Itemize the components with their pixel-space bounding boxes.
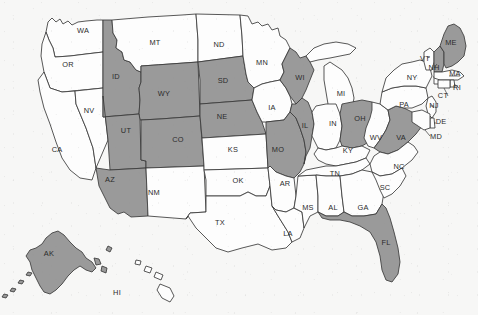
state-label-FL: FL [381, 238, 390, 247]
state-label-HI: HI [113, 288, 121, 297]
state-label-GA: GA [357, 203, 368, 212]
state-label-SC: SC [380, 183, 391, 192]
state-HI[interactable] [135, 260, 174, 302]
state-label-MA: MA [449, 69, 461, 78]
state-label-WY: WY [158, 89, 170, 98]
state-label-KY: KY [343, 146, 353, 155]
state-label-IN: IN [329, 119, 337, 128]
state-label-NJ: NJ [429, 101, 439, 110]
state-label-MI: MI [337, 89, 346, 98]
state-label-WA: WA [77, 26, 89, 35]
state-label-NY: NY [407, 73, 418, 82]
state-label-OK: OK [232, 176, 243, 185]
state-label-AL: AL [328, 203, 337, 212]
state-label-CA: CA [52, 145, 63, 154]
state-label-NE: NE [217, 112, 228, 121]
state-label-NC: NC [393, 162, 405, 171]
state-label-DE: DE [436, 117, 447, 126]
state-IN[interactable] [312, 104, 342, 150]
state-CT[interactable] [438, 80, 450, 88]
state-label-AZ: AZ [105, 175, 115, 184]
state-label-MO: MO [272, 145, 284, 154]
state-label-MS: MS [302, 203, 314, 212]
state-AZ[interactable] [96, 168, 148, 217]
state-label-VT: VT [420, 54, 430, 63]
state-label-ND: ND [213, 40, 224, 49]
alaska-aleutian-islands [2, 272, 32, 298]
us-choropleth-map: WAORCANVIDMTWYUTCOAZNMNDSDNEKSOKTXMNIAMO… [0, 0, 478, 315]
state-label-TN: TN [330, 169, 340, 178]
state-label-UT: UT [121, 126, 132, 135]
state-label-MN: MN [256, 58, 268, 67]
state-label-NM: NM [148, 188, 160, 197]
us-map-figure: WAORCANVIDMTWYUTCOAZNMNDSDNEKSOKTXMNIAMO… [0, 0, 478, 315]
state-label-IL: IL [302, 121, 309, 130]
state-label-ID: ID [112, 72, 120, 81]
state-label-CO: CO [172, 135, 184, 144]
state-label-WI: WI [295, 73, 304, 82]
alaska-panhandle-islands [94, 246, 112, 273]
state-label-TX: TX [215, 218, 225, 227]
state-label-PA: PA [399, 100, 409, 109]
state-label-AK: AK [44, 249, 54, 258]
state-label-AR: AR [280, 179, 291, 188]
state-label-ME: ME [445, 38, 457, 47]
state-label-MT: MT [149, 38, 160, 47]
state-label-CT: CT [438, 91, 449, 100]
state-label-KS: KS [228, 145, 238, 154]
state-label-NH: NH [428, 63, 439, 72]
state-label-MD: MD [430, 132, 442, 141]
state-label-OH: OH [354, 114, 366, 123]
state-AK[interactable] [26, 231, 96, 294]
state-ND[interactable] [196, 14, 243, 62]
state-label-RI: RI [453, 83, 461, 92]
state-label-NV: NV [84, 106, 95, 115]
state-label-OR: OR [62, 60, 74, 69]
state-label-SD: SD [218, 76, 229, 85]
state-label-VA: VA [396, 133, 406, 142]
state-label-LA: LA [283, 229, 292, 238]
state-label-WV: WV [370, 133, 382, 142]
state-label-IA: IA [268, 103, 275, 112]
state-WA[interactable] [46, 18, 103, 57]
